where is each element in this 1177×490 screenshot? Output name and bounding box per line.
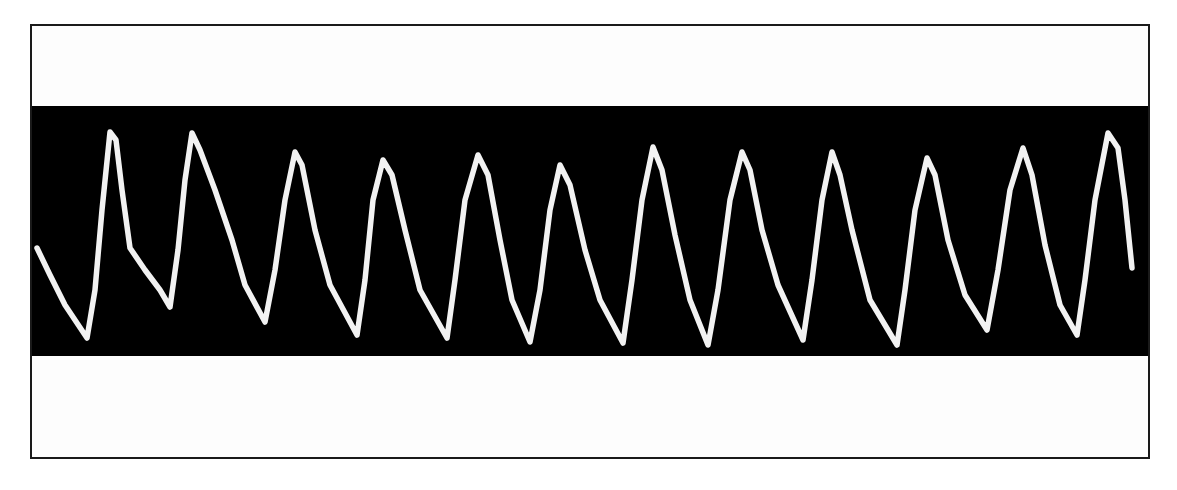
waveform-trace xyxy=(37,132,1132,345)
waveform-plot xyxy=(0,0,1177,490)
